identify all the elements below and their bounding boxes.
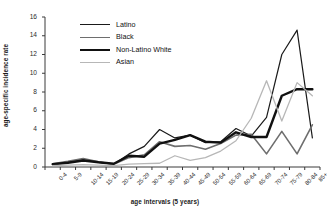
legend-label: Non-Latino White xyxy=(116,46,172,53)
chart-legend: LatinoBlackNon-Latino WhiteAsian xyxy=(80,18,172,68)
legend-item: Black xyxy=(80,31,172,44)
x-axis-title: age intervals (5 years) xyxy=(0,198,330,205)
series-line-asian xyxy=(53,81,313,166)
legend-item: Asian xyxy=(80,56,172,69)
legend-label: Black xyxy=(116,33,134,40)
legend-label: Asian xyxy=(116,58,134,65)
chart-container: age-specific incidence rate 024681012141… xyxy=(0,0,330,221)
legend-label: Latino xyxy=(116,21,136,28)
legend-item: Non-Latino White xyxy=(80,43,172,56)
legend-item: Latino xyxy=(80,18,172,31)
